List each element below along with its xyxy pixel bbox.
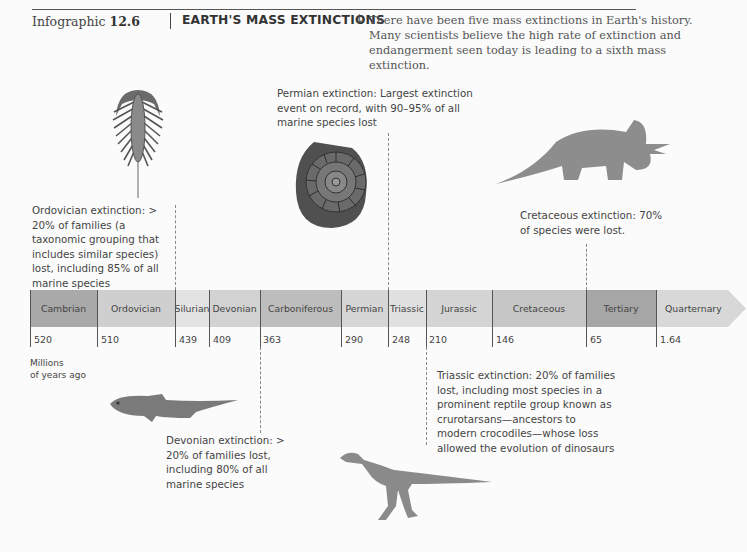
tick xyxy=(388,290,389,347)
permian-leader-line xyxy=(388,133,389,290)
units-line-1: Millions xyxy=(30,357,86,369)
intro-text: There have been five mass extinctions in… xyxy=(369,13,714,73)
period-cambrian: Cambrian xyxy=(30,290,97,327)
infographic-label: Infographic 12.6 xyxy=(32,14,140,29)
header-rule xyxy=(32,9,326,10)
period-carboniferous: Carboniferous xyxy=(260,290,341,327)
arrow-down-icon: ↓ xyxy=(354,12,364,26)
permian-extinction-note: Permian extinction: Largest extinction e… xyxy=(277,86,477,130)
age-devonian: 409 xyxy=(213,334,231,345)
period-silurian: Silurian xyxy=(175,290,209,327)
age-cretaceous: 146 xyxy=(496,334,514,345)
period-label: Carboniferous xyxy=(268,303,333,314)
tick xyxy=(426,290,427,347)
infographic-word: Infographic xyxy=(32,14,106,29)
age-permian: 290 xyxy=(345,334,363,345)
ordovician-extinction-note: Ordovician extinction: > 20% of families… xyxy=(32,203,182,290)
age-ordovician: 510 xyxy=(101,334,119,345)
header-separator xyxy=(170,13,171,29)
timeline-units: Millions of years ago xyxy=(30,357,86,381)
age-tertiary: 65 xyxy=(590,334,602,345)
period-label: Devonian xyxy=(212,303,256,314)
period-label: Triassic xyxy=(390,303,424,314)
units-line-2: of years ago xyxy=(30,369,86,381)
triassic-leader-line xyxy=(426,347,427,445)
tick xyxy=(209,290,210,347)
period-label: Cambrian xyxy=(41,303,86,314)
tick xyxy=(175,290,176,347)
period-devonian: Devonian xyxy=(209,290,260,327)
period-label: Silurian xyxy=(175,303,210,314)
period-label: Quarternary xyxy=(665,303,722,314)
tick xyxy=(30,290,31,347)
period-permian: Permian xyxy=(341,290,388,327)
period-cretaceous: Cretaceous xyxy=(492,290,586,327)
age-quarternary: 1.64 xyxy=(660,334,681,345)
age-triassic: 248 xyxy=(392,334,410,345)
trilobite-icon xyxy=(112,86,164,201)
period-label: Tertiary xyxy=(604,303,639,314)
age-carboniferous: 363 xyxy=(263,334,281,345)
age-jurassic: 210 xyxy=(429,334,447,345)
period-label: Cretaceous xyxy=(513,303,565,314)
age-silurian: 439 xyxy=(179,334,197,345)
tick xyxy=(656,290,657,347)
dinosaur-icon xyxy=(338,450,494,522)
header-rule-right xyxy=(326,9,636,10)
age-cambrian: 520 xyxy=(34,334,52,345)
tick xyxy=(341,290,342,347)
tick xyxy=(260,290,261,347)
tick xyxy=(97,290,98,347)
triceratops-icon xyxy=(494,118,674,188)
devonian-extinction-note: Devonian extinction: > 20% of families l… xyxy=(166,433,306,491)
cretaceous-leader-line xyxy=(586,244,587,290)
period-label: Permian xyxy=(346,303,384,314)
period-jurassic: Jurassic xyxy=(426,290,492,327)
tick xyxy=(492,290,493,347)
triassic-extinction-note: Triassic extinction: 20% of families los… xyxy=(437,368,617,455)
period-ordovician: Ordovician xyxy=(97,290,175,327)
fish-fossil-icon xyxy=(108,390,240,424)
period-label: Jurassic xyxy=(441,303,477,314)
period-label: Ordovician xyxy=(111,303,161,314)
period-quarternary: Quarternary xyxy=(656,290,746,327)
tick xyxy=(586,290,587,347)
period-triassic: Triassic xyxy=(388,290,426,327)
ordovician-leader-line xyxy=(175,205,176,290)
infographic-number: 12.6 xyxy=(109,14,139,29)
devonian-leader-line xyxy=(260,347,261,433)
cretaceous-extinction-note: Cretaceous extinction: 70% of species we… xyxy=(520,208,670,237)
period-tertiary: Tertiary xyxy=(586,290,656,327)
ammonite-fossil-icon xyxy=(292,138,372,230)
